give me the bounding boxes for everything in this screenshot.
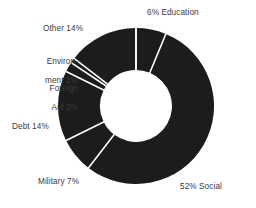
slice-label-foreign-aid-line1: Foreign <box>50 84 78 93</box>
slice-label-debt: Debt 14% <box>12 122 49 132</box>
donut-chart: 6% Education Other 14% Environ- ment 1% … <box>0 0 256 208</box>
slice-label-environment-line1: Environ- <box>47 57 78 66</box>
slice-label-social: 52% Social <box>180 182 222 192</box>
slice-label-military: Military 7% <box>38 177 79 187</box>
slice-label-foreign-aid: Foreign Aid 2% <box>20 74 78 122</box>
slice-label-education: 6% Education <box>147 8 199 18</box>
slice-label-foreign-aid-line2: Aid 2% <box>51 103 78 112</box>
slice-label-other: Other 14% <box>43 24 83 34</box>
